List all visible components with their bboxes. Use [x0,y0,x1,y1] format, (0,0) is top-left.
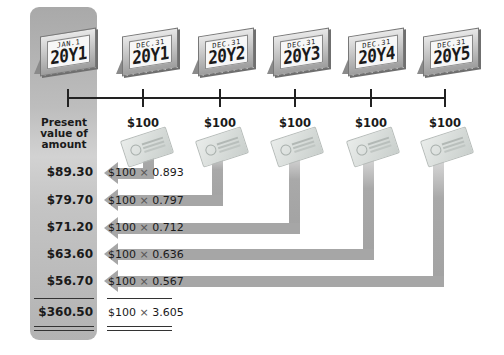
arrow-stem-year4 [363,150,374,260]
bank-check-icon [346,126,400,167]
calendar-dec31-20y4-icon: DEC.31 20Y4 [342,28,406,78]
timeline-tick [142,89,144,107]
calendar-jan1-20y1-icon: JAN.1 20Y1 [34,28,98,78]
formula-year2: $100 × 0.797 [108,194,184,207]
bank-check-icon [420,126,474,167]
present-value-year4: $63.60 [33,247,93,261]
calendar-year: 20Y5 [431,43,472,68]
total-double-rule [34,326,94,327]
timeline-tick [370,89,372,107]
total-double-rule [34,330,94,331]
formula-year3: $100 × 0.712 [108,221,184,234]
formula-total: $100 × 3.605 [108,306,184,319]
timeline-tick [219,89,221,107]
present-value-header: Present value of amount [33,117,95,150]
formula-year4: $100 × 0.636 [108,248,184,261]
timeline-tick [444,89,446,107]
present-value-year5: $56.70 [33,274,93,288]
sum-rule [34,298,94,299]
calendar-year: 20Y1 [130,43,171,68]
calendar-year: 20Y1 [48,43,89,68]
calendar-dec31-20y1-icon: DEC.31 20Y1 [116,28,180,78]
present-value-year3: $71.20 [33,220,93,234]
calendar-dec31-20y2-icon: DEC.31 20Y2 [192,28,256,78]
bank-check-icon [120,126,174,167]
calendar-dec31-20y5-icon: DEC.31 20Y5 [417,28,481,78]
timeline-axis [68,97,445,99]
formula-year5: $100 × 0.567 [108,275,184,288]
present-value-total: $360.50 [33,305,93,319]
present-value-year2: $79.70 [33,193,93,207]
arrow-stem-year5 [433,150,444,287]
sum-rule [107,298,172,299]
formula-year1: $100 × 0.893 [108,166,184,179]
total-double-rule [107,326,172,327]
calendar-dec31-20y3-icon: DEC.31 20Y3 [267,28,331,78]
present-value-year1: $89.30 [33,165,93,179]
timeline-tick [294,89,296,107]
calendar-year: 20Y3 [281,43,322,68]
timeline-tick [67,89,69,107]
total-double-rule [107,330,172,331]
calendar-year: 20Y2 [206,43,247,68]
bank-check-icon [270,126,324,167]
calendar-year: 20Y4 [356,43,397,68]
bank-check-icon [195,126,249,167]
